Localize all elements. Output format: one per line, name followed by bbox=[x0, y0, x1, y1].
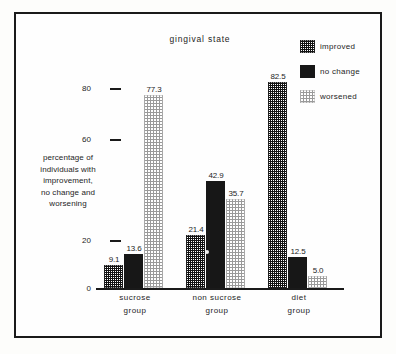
plot-area: gingival state improved no change worsen… bbox=[0, 0, 396, 354]
bar-value-label: 77.3 bbox=[137, 85, 171, 94]
bar-value-label: 35.7 bbox=[219, 189, 253, 198]
bar-group-diet: 82.5 12.5 5.0 bbox=[268, 66, 331, 288]
bar-group-sucrose: 9.1 13.6 77.3 bbox=[104, 66, 167, 288]
bar-rect bbox=[226, 199, 245, 288]
y-tick-60: 60 bbox=[30, 135, 91, 145]
legend-swatch-improved-icon bbox=[300, 40, 315, 53]
bar-value-label: 5.0 bbox=[301, 266, 335, 275]
bar-non-sucrose-no-change[interactable]: 42.9 bbox=[206, 66, 225, 288]
y-tick-label-80: 80 bbox=[69, 84, 91, 93]
bar-sucrose-improved[interactable]: 9.1 bbox=[104, 66, 123, 288]
figure-canvas: gingival state improved no change worsen… bbox=[0, 0, 396, 354]
y-axis-label-line-5: worsening bbox=[22, 198, 114, 210]
bar-non-sucrose-worsened[interactable]: 35.7 bbox=[226, 66, 245, 288]
y-tick-80: 80 bbox=[30, 84, 91, 94]
scan-artifact-speck bbox=[205, 250, 209, 254]
bar-rect bbox=[124, 254, 143, 288]
bar-rect bbox=[186, 235, 205, 289]
legend-label-improved: improved bbox=[320, 42, 355, 51]
y-axis-label-line-2: individuals with bbox=[22, 164, 114, 176]
chart-title: gingival state bbox=[130, 34, 270, 44]
bar-diet-no-change[interactable]: 12.5 bbox=[288, 66, 307, 288]
x-category-diet: diet group bbox=[249, 291, 349, 317]
bar-sucrose-no-change[interactable]: 13.6 bbox=[124, 66, 143, 288]
y-tick-0: 0 bbox=[30, 284, 91, 294]
x-category-line-2: group bbox=[249, 304, 349, 317]
y-axis-label: percentage of individuals with improveme… bbox=[22, 152, 114, 210]
y-axis-label-line-1: percentage of bbox=[22, 152, 114, 164]
bar-rect bbox=[308, 276, 327, 289]
y-axis-label-line-3: improvement, bbox=[22, 175, 114, 187]
legend-item-improved: improved bbox=[300, 40, 392, 53]
x-axis-baseline bbox=[96, 288, 344, 290]
bar-rect bbox=[268, 82, 287, 288]
bar-sucrose-worsened[interactable]: 77.3 bbox=[144, 66, 163, 288]
x-category-line-1: diet bbox=[249, 291, 349, 304]
y-tick-label-20: 20 bbox=[69, 236, 91, 245]
bar-rect bbox=[104, 265, 123, 288]
bar-diet-worsened[interactable]: 5.0 bbox=[308, 66, 327, 288]
bar-group-non-sucrose: 21.4 42.9 35.7 bbox=[186, 66, 249, 288]
y-tick-label-60: 60 bbox=[69, 135, 91, 144]
y-axis-label-line-4: no change and bbox=[22, 187, 114, 199]
y-tick-20: 20 bbox=[30, 236, 91, 246]
bar-rect bbox=[144, 95, 163, 288]
